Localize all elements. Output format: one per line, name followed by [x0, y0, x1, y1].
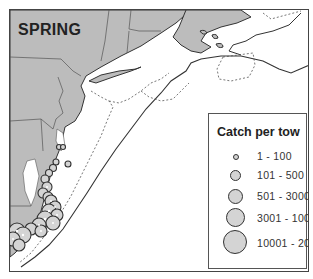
- legend-label: 10001 - 20000: [257, 237, 309, 249]
- season-title: SPRING: [18, 21, 81, 39]
- legend-item: 3001 - 10000: [209, 208, 306, 228]
- map-frame: SPRING Catch per tow 1 - 100 101 - 500 5…: [9, 9, 309, 272]
- legend-item: 101 - 500: [209, 165, 306, 185]
- legend-item: 501 - 3000: [209, 186, 306, 206]
- circle-symbol-icon: [233, 154, 239, 160]
- legend-label: 501 - 3000: [257, 190, 309, 202]
- circle-symbol-icon: [230, 170, 241, 181]
- legend-label: 101 - 500: [257, 169, 304, 181]
- legend: Catch per tow 1 - 100 101 - 500 501 - 30…: [208, 113, 307, 269]
- legend-item: 1 - 100: [209, 147, 306, 167]
- circle-symbol-icon: [226, 208, 245, 227]
- legend-label: 1 - 100: [257, 150, 292, 162]
- legend-item: 10001 - 20000: [209, 233, 306, 253]
- land-cape-cod: [173, 10, 251, 53]
- circle-symbol-icon: [228, 189, 243, 204]
- legend-title: Catch per tow: [217, 125, 300, 139]
- legend-label: 3001 - 10000: [257, 212, 309, 224]
- circle-symbol-icon: [223, 230, 247, 254]
